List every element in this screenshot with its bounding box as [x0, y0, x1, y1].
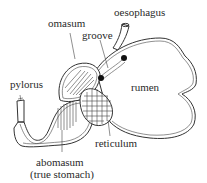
ruminant-stomach-diagram: [0, 0, 207, 183]
label-pylorus: pylorus: [10, 79, 43, 90]
label-omasum: omasum: [48, 18, 85, 29]
label-groove: groove: [82, 30, 113, 41]
label-reticulum: reticulum: [95, 138, 137, 149]
pylorus-duct: [17, 98, 24, 122]
label-abomasum: abomasum: [36, 157, 84, 168]
groove-dot-lower: [98, 75, 104, 81]
groove-dot-upper: [121, 55, 127, 61]
label-abomasum-note: (true stomach): [30, 169, 94, 180]
label-oesophagus: oesophagus: [114, 7, 165, 18]
label-rumen: rumen: [131, 82, 159, 93]
